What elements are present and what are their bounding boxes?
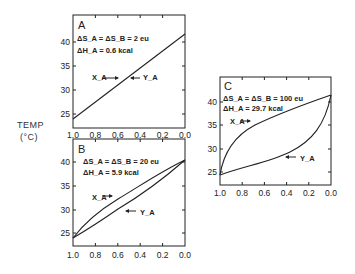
y-axis-label: TEMP xyxy=(17,120,44,130)
panel-a-ya-label: Y_A xyxy=(143,73,158,82)
panel-b-xtick: 0.6 xyxy=(112,250,124,260)
panel-a-annotation-entropy: ΔS_A = ΔS_B = 2 eu xyxy=(77,34,149,43)
panel-b-ytick: 40 xyxy=(61,157,71,167)
panel-c-xtick: 0.2 xyxy=(303,188,315,198)
panel-b-ya-label: Y_A xyxy=(140,208,155,217)
panel-a-label: A xyxy=(78,19,86,31)
panel-b-xtick: 1.0 xyxy=(67,250,79,260)
panel-c-xtick: 1.0 xyxy=(214,188,226,198)
panel-c-xtick: 0.8 xyxy=(236,188,248,198)
panel-b-xa-label: X_A xyxy=(92,193,107,202)
panel-b-ytick: 30 xyxy=(61,205,71,215)
panel-b-xtick: 0.8 xyxy=(89,250,101,260)
panel-a-frame xyxy=(73,15,185,128)
panel-c: 25 30 35 40 1.0 0.8 0.6 0.4 0.2 0.0 C ΔS… xyxy=(208,77,338,198)
panel-c-xtick: 0.0 xyxy=(325,188,337,198)
panel-a-ytick: 35 xyxy=(61,61,71,71)
panel-a-annotation-enthalpy: ΔH_A = 0.6 kcal xyxy=(77,46,133,55)
panel-c-ya-label: Y_A xyxy=(300,154,315,163)
panel-c-ytick: 30 xyxy=(208,144,218,154)
panel-b-ytick: 25 xyxy=(61,228,71,238)
panel-c-xtick: 0.6 xyxy=(258,188,270,198)
panel-b-xtick: 0.4 xyxy=(134,250,146,260)
panel-b-ytick: 35 xyxy=(61,181,71,191)
panel-c-annotation-enthalpy: ΔH_A = 29.7 kcal xyxy=(223,104,283,113)
panel-c-xtick: 0.4 xyxy=(281,188,293,198)
panel-c-ytick: 25 xyxy=(208,167,218,177)
panel-c-label: C xyxy=(224,80,232,92)
panel-a-ytick: 25 xyxy=(61,109,71,119)
panel-c-annotation-entropy: ΔS_A = ΔS_B = 100 eu xyxy=(223,94,304,103)
panel-a-ytick: 40 xyxy=(61,37,71,47)
panel-a: 25 30 35 40 1.0 0.8 0.6 0.4 0.2 0.0 A ΔS… xyxy=(61,15,192,140)
panel-b-annotation-entropy: ΔS_A = ΔS_B = 20 eu xyxy=(83,157,159,166)
panel-b-annotation-enthalpy: ΔH_A = 5.9 kcal xyxy=(83,168,139,177)
panel-c-ytick: 35 xyxy=(208,120,218,130)
y-axis-unit: (°C) xyxy=(20,132,38,142)
panel-b-label: B xyxy=(78,143,85,155)
panel-a-ytick: 30 xyxy=(61,85,71,95)
panel-c-ytick: 40 xyxy=(208,97,218,107)
panel-b-xtick: 0.2 xyxy=(157,250,169,260)
phase-diagram-figure: TEMP (°C) 25 30 35 40 1.0 0.8 0.6 0.4 0.… xyxy=(0,0,355,274)
panel-b-xtick: 0.0 xyxy=(179,250,191,260)
panel-b: 25 30 35 40 1.0 0.8 0.6 0.4 0.2 0.0 B ΔS… xyxy=(61,139,192,260)
